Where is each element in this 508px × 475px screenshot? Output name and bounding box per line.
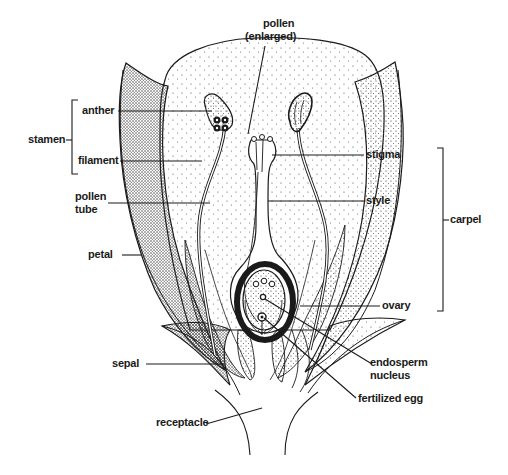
label-ovary: ovary bbox=[382, 299, 410, 312]
receptacle bbox=[215, 390, 318, 455]
label-stigma: stigma bbox=[366, 148, 400, 161]
label-receptacle: receptacle bbox=[156, 416, 208, 429]
label-pollen-tube-line1: pollen bbox=[75, 190, 106, 203]
label-pollen: pollen bbox=[263, 17, 294, 30]
pollen-label-line1: pollen bbox=[263, 17, 294, 30]
label-pollen-tube-line2: tube bbox=[75, 203, 97, 216]
flower-diagram: pollen (enlarged) anther stamen filament… bbox=[0, 0, 508, 475]
label-anther: anther bbox=[82, 104, 114, 117]
label-style: style bbox=[366, 194, 390, 207]
label-petal: petal bbox=[88, 248, 113, 261]
label-sepal: sepal bbox=[112, 357, 139, 370]
label-filament: filament bbox=[78, 154, 119, 167]
label-endosperm-line1: endosperm bbox=[370, 356, 428, 369]
label-stamen: stamen bbox=[28, 133, 65, 146]
label-fertilized-egg: fertilized egg bbox=[358, 392, 423, 405]
flower-drawing bbox=[0, 0, 508, 475]
label-pollen-enlarged: (enlarged) bbox=[245, 30, 296, 43]
label-endosperm-line2: nucleus bbox=[370, 369, 410, 382]
label-carpel: carpel bbox=[450, 213, 481, 226]
